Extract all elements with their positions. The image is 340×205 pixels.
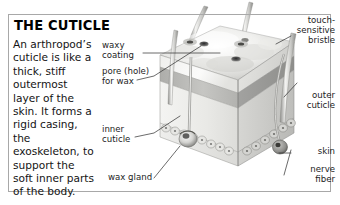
body-paragraph: An arthropod’s cuticle is like a thick, … bbox=[13, 38, 97, 199]
label-nerve-fiber: nerve fiber bbox=[279, 164, 335, 184]
label-wax-gland: wax gland bbox=[108, 172, 152, 182]
label-outer-cuticle: outer cuticle bbox=[279, 90, 335, 110]
label-inner-cuticle: inner cuticle bbox=[102, 124, 130, 144]
page-title: THE CUTICLE bbox=[14, 17, 110, 33]
label-touch-sensitive-bristle: touch- sensitive bristle bbox=[279, 15, 335, 45]
figure-panel: THE CUTICLE An arthropod’s cuticle is li… bbox=[0, 0, 340, 205]
label-pore-for-wax: pore (hole) for wax bbox=[102, 66, 149, 86]
label-skin: skin bbox=[279, 146, 335, 156]
label-waxy-coating: waxy coating bbox=[102, 40, 134, 60]
